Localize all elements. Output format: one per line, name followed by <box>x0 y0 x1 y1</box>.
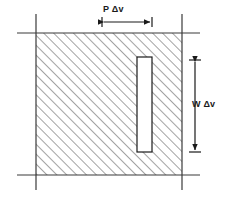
hatched-square <box>36 33 182 175</box>
horizontal-dimension-arrow <box>102 17 152 27</box>
hatched-square-fill <box>36 33 182 175</box>
figure-canvas: P Δv W Δv <box>0 0 231 203</box>
vertical-dimension-label: W Δv <box>192 100 215 109</box>
inner-white-rectangle <box>137 57 152 152</box>
horizontal-dimension-label: P Δv <box>103 5 124 14</box>
